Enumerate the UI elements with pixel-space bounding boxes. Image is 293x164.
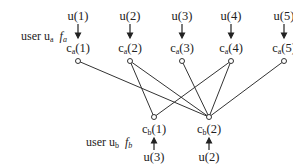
- node-ca1: ca(1): [66, 42, 90, 56]
- bottom-arrows: [152, 138, 212, 150]
- input-u5: u(5): [274, 10, 293, 23]
- input-b-u2: u(2): [199, 151, 220, 164]
- edges: [78, 61, 284, 117]
- input-b-u3: u(3): [144, 151, 165, 164]
- user-b-label: user ub fb: [86, 136, 132, 150]
- bipartite-graph: [0, 0, 293, 164]
- input-u3: u(3): [172, 10, 193, 23]
- nodes: [76, 59, 287, 120]
- node-ca2: ca(2): [118, 42, 142, 56]
- input-u2: u(2): [120, 10, 141, 23]
- node-ca4: ca(4): [219, 42, 243, 56]
- node-cb1: cb(1): [142, 123, 166, 137]
- input-u4: u(4): [221, 10, 242, 23]
- node-ca3: ca(3): [170, 42, 194, 56]
- node-ca5: ca(5): [272, 42, 293, 56]
- user-a-label: user ua fa: [21, 30, 67, 44]
- top-arrows: [76, 24, 287, 38]
- node-cb2: cb(2): [197, 123, 221, 137]
- input-u1: u(1): [68, 10, 89, 23]
